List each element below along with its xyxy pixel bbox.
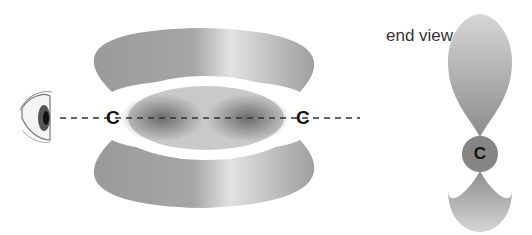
end-view-lobe-bottom <box>448 171 512 232</box>
carbon-atom-right: C <box>296 108 310 127</box>
carbon-atom-left: C <box>106 108 120 127</box>
end-view-carbon-atom: C <box>462 136 498 172</box>
end-view-label: end view <box>386 26 453 46</box>
eye-icon <box>20 92 52 143</box>
end-view-lobe-top <box>448 14 512 137</box>
